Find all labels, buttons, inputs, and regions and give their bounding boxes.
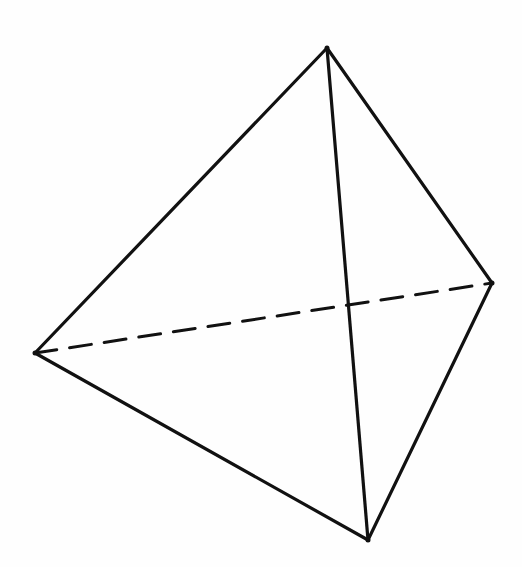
edge-top-bottom bbox=[327, 48, 368, 540]
vertex-left bbox=[33, 351, 38, 356]
edge-left-bottom bbox=[35, 353, 368, 540]
diagram-canvas bbox=[0, 0, 522, 567]
tetrahedron-figure bbox=[0, 0, 522, 567]
vertex-top bbox=[325, 46, 330, 51]
tetrahedron-edges bbox=[33, 46, 495, 543]
vertex-bottom bbox=[366, 538, 371, 543]
edge-left-right-hidden bbox=[35, 283, 492, 353]
edge-top-right bbox=[327, 48, 492, 283]
edge-right-bottom bbox=[368, 283, 492, 540]
vertex-right bbox=[490, 281, 495, 286]
edge-top-left bbox=[35, 48, 327, 353]
